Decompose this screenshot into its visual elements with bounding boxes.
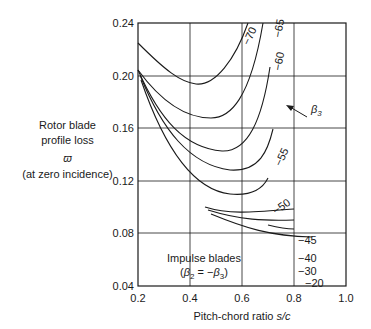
- svg-text:−65: −65: [271, 18, 286, 38]
- svg-text:0.24: 0.24: [113, 17, 134, 29]
- svg-text:β3: β3: [310, 103, 322, 118]
- svg-text:−20: −20: [305, 277, 324, 289]
- chart: Rotor blade profile loss ϖ (at zero inci…: [0, 0, 371, 329]
- x-axis-label: Pitch-chord ratio s/c: [193, 310, 291, 322]
- svg-text:−70: −70: [240, 25, 259, 47]
- impulse-blades-label: Impulse blades: [167, 252, 241, 264]
- curve-labels: −70 −65 −60 −55 −50 −45 −40 −30 −20: [240, 18, 324, 289]
- svg-text:0.2: 0.2: [130, 292, 145, 304]
- plot-svg: 0.24 0.20 0.16 0.12 0.08 0.04 0.2 0.4 0.…: [0, 0, 371, 329]
- svg-text:−40: −40: [298, 252, 317, 264]
- svg-text:−30: −30: [298, 265, 317, 277]
- svg-text:0.20: 0.20: [113, 70, 134, 82]
- svg-text:0.6: 0.6: [234, 292, 249, 304]
- svg-text:0.8: 0.8: [286, 292, 301, 304]
- impulse-blades-condition: (β2 = −β3): [180, 266, 228, 281]
- svg-text:0.4: 0.4: [182, 292, 197, 304]
- beta3-annotation: β3: [286, 103, 322, 118]
- svg-text:−60: −60: [271, 51, 286, 71]
- svg-text:−55: −55: [272, 146, 291, 168]
- svg-text:0.12: 0.12: [113, 175, 134, 187]
- x-ticks: 0.2 0.4 0.6 0.8 1.0: [130, 292, 353, 304]
- y-ticks: 0.24 0.20 0.16 0.12 0.08 0.04: [113, 17, 134, 292]
- svg-text:0.08: 0.08: [113, 227, 134, 239]
- svg-text:0.04: 0.04: [113, 280, 134, 292]
- svg-text:−50: −50: [270, 196, 292, 217]
- grid: [138, 23, 346, 286]
- svg-text:1.0: 1.0: [338, 292, 353, 304]
- svg-text:0.16: 0.16: [113, 122, 134, 134]
- svg-text:−45: −45: [298, 234, 317, 246]
